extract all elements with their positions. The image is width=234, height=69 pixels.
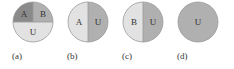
pie-diagram-c: B U <box>116 0 172 50</box>
region-label: U <box>150 17 157 27</box>
panel-caption: (d) <box>177 51 188 61</box>
panel-caption: (b) <box>67 51 78 61</box>
panel-d: U (d) <box>171 0 227 69</box>
pie-diagram-b: A U <box>61 0 117 50</box>
pie-diagram-d: U <box>171 0 227 50</box>
region-label: U <box>95 17 102 27</box>
region-label: U <box>30 27 37 37</box>
panel-a: A B U (a) <box>6 0 62 69</box>
region-label: B <box>131 17 137 27</box>
panel-caption: (a) <box>12 51 22 61</box>
region-label: A <box>76 17 83 27</box>
pie-diagram-a: A B U <box>6 0 62 50</box>
region-label: B <box>40 9 46 19</box>
region-label: A <box>21 9 28 19</box>
panel-c: B U (c) <box>116 0 172 69</box>
panel-caption: (c) <box>122 51 132 61</box>
panel-b: A U (b) <box>61 0 117 69</box>
region-label: U <box>195 17 202 27</box>
